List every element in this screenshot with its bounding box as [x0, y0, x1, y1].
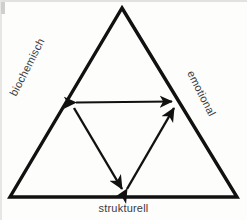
diagram-page: biochemisch emotional strukturell [0, 0, 247, 220]
arrow-biochemisch-emotional [76, 102, 172, 103]
label-strukturell: strukturell [0, 203, 247, 214]
arrow-strukturell-emotional [127, 108, 174, 189]
arrow-biochemisch-strukturell [74, 108, 122, 189]
inner-arrow-group [74, 102, 174, 190]
